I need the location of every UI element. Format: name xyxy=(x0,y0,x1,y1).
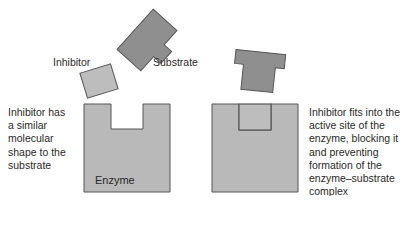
substrate-label: Substrate xyxy=(153,56,198,69)
inhibitor-blocking-caption: Inhibitor fits into the active site of t… xyxy=(309,106,400,196)
enzyme-label: Enzyme xyxy=(95,174,135,187)
inhibitor-shape xyxy=(80,64,118,98)
inhibitor-similarity-caption: Inhibitor has a similar molecular shape … xyxy=(8,106,66,172)
inhibitor-label: Inhibitor xyxy=(53,56,90,69)
blocked-substrate-shape xyxy=(232,49,286,93)
bound-inhibitor-shape xyxy=(239,104,271,130)
